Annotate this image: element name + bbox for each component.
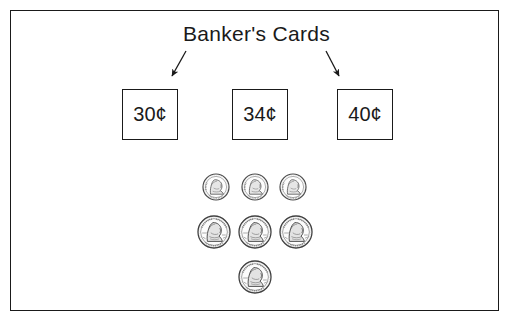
coin-penny[interactable] <box>198 216 230 248</box>
coin-dime[interactable] <box>280 174 306 200</box>
coin-penny[interactable] <box>239 216 271 248</box>
dime-row <box>203 174 306 200</box>
coin-penny[interactable] <box>239 261 271 293</box>
coin-dime[interactable] <box>203 174 229 200</box>
penny-row-bottom <box>239 261 271 293</box>
coin-dime[interactable] <box>242 174 268 200</box>
coin-group <box>0 0 513 323</box>
penny-row <box>198 216 312 248</box>
worksheet: Banker's Cards 30¢ 34¢ 40¢ <box>0 0 513 323</box>
coin-penny[interactable] <box>280 216 312 248</box>
